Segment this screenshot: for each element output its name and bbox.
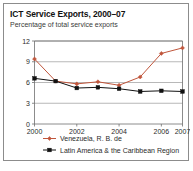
data-point-marker [33, 77, 37, 81]
y-tick-label: 6 [26, 79, 30, 86]
x-axis-tick-labels: 20002002200420062007 [27, 124, 190, 135]
y-tick-label: 9 [26, 58, 30, 65]
data-point-marker [47, 136, 51, 140]
data-series [32, 46, 184, 93]
gridlines [35, 41, 183, 103]
x-tick-label: 2000 [27, 128, 43, 135]
y-tick-label: 0 [26, 121, 30, 128]
legend-item: Latin America & the Caribbean Region [43, 147, 179, 155]
legend-label: Venezuela, R. B. de [60, 135, 122, 142]
data-point-marker [75, 86, 79, 90]
chart-figure: ICT Service Exports, 2000–07 Percentage … [3, 3, 189, 161]
data-point-marker [96, 86, 100, 90]
legend-label: Latin America & the Caribbean Region [60, 147, 179, 155]
data-point-marker [160, 89, 164, 93]
chart-legend: Venezuela, R. B. deLatin America & the C… [43, 135, 179, 155]
y-tick-label: 3 [26, 100, 30, 107]
line-chart-svg: 036912 20002002200420062007 Venezuela, R… [4, 4, 190, 162]
x-tick-label: 2007 [175, 128, 190, 135]
plot-area: 036912 20002002200420062007 Venezuela, R… [4, 4, 190, 162]
data-point-marker [48, 148, 52, 152]
data-point-marker [180, 46, 184, 50]
x-tick-label: 2004 [111, 128, 127, 135]
data-point-marker [138, 90, 142, 94]
data-point-marker [96, 80, 100, 84]
y-tick-label: 12 [22, 38, 30, 45]
data-point-marker [181, 90, 185, 94]
data-point-marker [117, 87, 121, 91]
data-point-marker [54, 79, 58, 83]
y-axis-tick-labels: 036912 [22, 38, 34, 128]
x-tick-label: 2006 [154, 128, 170, 135]
x-tick-label: 2002 [69, 128, 85, 135]
legend-item: Venezuela, R. B. de [43, 135, 122, 142]
